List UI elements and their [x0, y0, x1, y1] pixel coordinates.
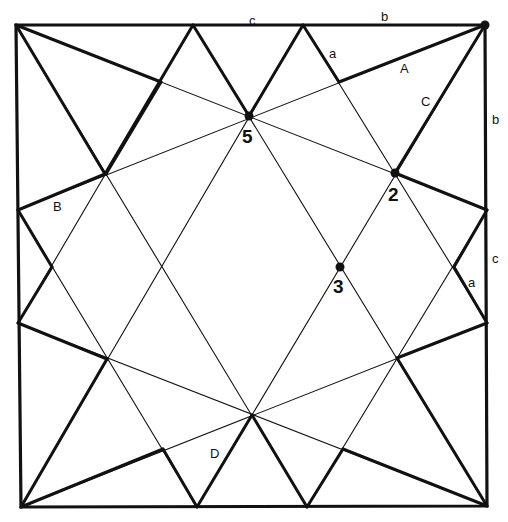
bold-segment	[21, 359, 107, 507]
edge-label: a	[329, 47, 336, 60]
vertex-dot	[245, 112, 254, 121]
edge-label: c	[492, 252, 499, 265]
bold-segment	[252, 415, 307, 507]
vertex-dot	[391, 169, 400, 178]
bold-segment	[163, 449, 197, 507]
bold-segment	[18, 323, 107, 359]
bold-segment	[339, 25, 485, 82]
edge-label: a	[468, 276, 475, 289]
bold-segment	[307, 449, 343, 507]
bold-segment	[106, 82, 161, 174]
bold-segment	[193, 25, 249, 116]
bold-segment	[197, 415, 252, 507]
vertex-dot	[481, 21, 490, 30]
square-frame	[16, 25, 487, 507]
edge-label: B	[53, 200, 62, 213]
bold-segment	[395, 173, 487, 210]
edge-label: b	[381, 10, 388, 23]
bold-segment	[395, 25, 485, 173]
bold-segment	[21, 449, 163, 507]
vertex-dot	[336, 263, 345, 272]
edge-label: c	[249, 14, 256, 27]
edge-label: C	[421, 95, 430, 108]
bold-segment	[18, 267, 52, 323]
point-number-label: 2	[388, 185, 399, 204]
bold-segment	[16, 25, 105, 174]
bold-segment	[343, 449, 487, 506]
bold-segment	[454, 210, 487, 267]
diagram-canvas	[0, 0, 508, 522]
bold-segment	[16, 25, 161, 82]
point-number-label: 3	[333, 277, 344, 296]
edge-label: A	[400, 62, 409, 75]
bold-segment	[249, 25, 303, 116]
bold-segment	[397, 358, 487, 506]
edge-label: D	[210, 447, 219, 460]
edge-label: b	[492, 113, 499, 126]
geometry-diagram: cbaACbBcaD523	[0, 0, 508, 522]
bold-segment	[18, 210, 52, 267]
point-number-label: 5	[242, 127, 253, 146]
bold-segment	[397, 323, 487, 358]
